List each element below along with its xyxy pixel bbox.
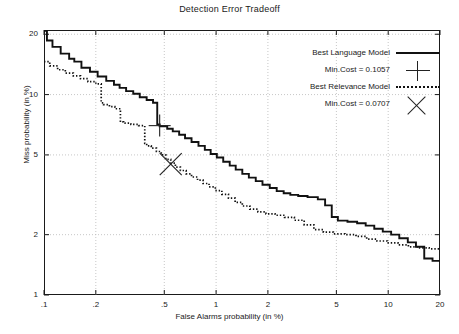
x-tick-label: 1: [201, 300, 231, 309]
y-axis-label: Miss probability (in %): [22, 55, 31, 195]
solid-line-icon: [396, 46, 440, 60]
y-tick-label: 10: [12, 90, 38, 99]
x-tick-label: 2: [253, 300, 283, 309]
y-tick-label: 5: [12, 150, 38, 159]
x-marker-icon: [396, 97, 440, 111]
x-tick-label: .2: [81, 300, 111, 309]
dotted-line-icon: [396, 80, 440, 94]
legend-label: Min.Cost = 0.0707: [325, 99, 396, 108]
y-tick-label: 2: [12, 230, 38, 239]
legend-item-language-model: Best Language Model: [252, 44, 440, 61]
legend-item-language-mincost: Min.Cost = 0.1057: [252, 61, 440, 78]
x-axis-label: False Alarms probability (in %): [0, 312, 459, 321]
x-tick-label: .1: [29, 300, 59, 309]
legend-label: Best Relevance Model: [310, 82, 396, 91]
plus-marker-icon: [396, 63, 440, 77]
x-tick-label: 20: [425, 300, 455, 309]
x-tick-label: .5: [149, 300, 179, 309]
legend-item-relevance-model: Best Relevance Model: [252, 78, 440, 95]
chart-title: Detection Error Tradeoff: [0, 4, 459, 14]
x-tick-label: 10: [373, 300, 403, 309]
x-tick-label: 5: [321, 300, 351, 309]
legend-label: Best Language Model: [312, 48, 396, 57]
y-tick-label: 1: [12, 290, 38, 299]
y-tick-label: 20: [12, 29, 38, 38]
legend-item-relevance-mincost: Min.Cost = 0.0707: [252, 95, 440, 112]
det-chart-figure: Detection Error Tradeoff Miss probabilit…: [0, 0, 459, 334]
chart-legend: Best Language Model Min.Cost = 0.1057 Be…: [252, 44, 440, 112]
legend-label: Min.Cost = 0.1057: [325, 65, 396, 74]
